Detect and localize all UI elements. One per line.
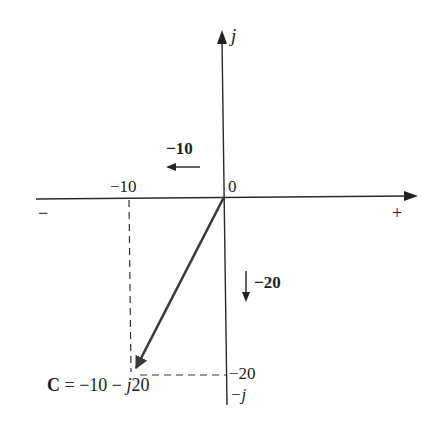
real-component-label: −10 xyxy=(166,140,193,157)
real-tick-label: −10 xyxy=(110,178,137,195)
imaginary-axis-arrow-icon xyxy=(217,30,227,44)
real-axis-positive-label: + xyxy=(392,204,402,222)
imag-axis-positive-label: j xyxy=(231,26,236,45)
real-axis-negative-label: − xyxy=(38,204,48,222)
phasor-expression: C = −10 − j20 xyxy=(47,376,149,394)
complex-plane-diagram xyxy=(0,0,440,425)
imag-tick-label: −20 xyxy=(229,365,256,382)
imaginary-axis xyxy=(222,40,227,405)
imag-axis-negative-label: −j xyxy=(230,386,246,403)
phasor-expression-imag: 20 xyxy=(131,375,149,395)
imag-component-label: −20 xyxy=(254,274,281,291)
phasor-name: C xyxy=(47,375,60,395)
real-axis-arrow-icon xyxy=(404,191,418,201)
phasor-expression-eq: = −10 − xyxy=(60,375,126,395)
phasor-vector-c xyxy=(136,197,224,368)
real-projection-dashed-line xyxy=(129,200,131,372)
down-arrow-head-icon xyxy=(242,292,250,302)
origin-label: 0 xyxy=(228,178,237,195)
left-arrow-head-icon xyxy=(166,163,176,171)
